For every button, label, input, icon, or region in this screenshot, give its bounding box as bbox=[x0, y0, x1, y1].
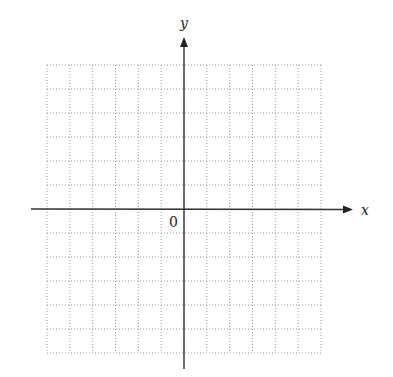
y-axis-arrow-icon bbox=[180, 37, 188, 47]
y-axis-label: y bbox=[179, 15, 189, 31]
x-axis-label: x bbox=[361, 202, 369, 218]
coordinate-plane: x y 0 bbox=[0, 0, 393, 377]
x-axis bbox=[31, 209, 346, 210]
origin-label: 0 bbox=[169, 214, 178, 230]
x-axis-arrow-icon bbox=[343, 206, 353, 214]
